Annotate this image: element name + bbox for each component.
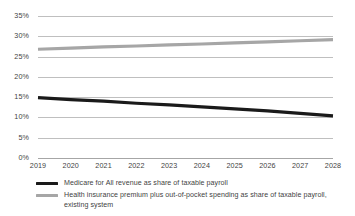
y-axis-tick-label: 35%: [0, 12, 29, 19]
x-axis-tick-label: 2023: [152, 162, 186, 169]
x-axis-tick-label: 2021: [87, 162, 121, 169]
x-axis-tick-label: 2020: [54, 162, 88, 169]
legend-swatch-gray: [36, 194, 58, 197]
legend-item: Health insurance premium plus out-of-poc…: [36, 190, 346, 210]
y-axis-tick-label: 15%: [0, 93, 29, 100]
y-axis-tick-label: 30%: [0, 32, 29, 39]
y-axis-tick-label: 20%: [0, 73, 29, 80]
x-axis-tick-label: 2025: [218, 162, 252, 169]
legend-item: Medicare for All revenue as share of tax…: [36, 178, 346, 188]
x-axis-tick-label: 2028: [316, 162, 350, 169]
plot-area: [38, 16, 333, 158]
series-lines: [38, 16, 333, 158]
x-axis-tick-label: 2019: [21, 162, 55, 169]
y-axis-tick-label: 10%: [0, 113, 29, 120]
x-axis-tick-labels: 2019202020212022202320242025202620272028: [38, 162, 333, 174]
x-axis-tick-label: 2027: [283, 162, 317, 169]
legend-label: Health insurance premium plus out-of-poc…: [64, 190, 346, 210]
chart-legend: Medicare for All revenue as share of tax…: [36, 178, 346, 212]
y-axis-tick-label: 0%: [0, 154, 29, 161]
x-axis-tick-label: 2024: [185, 162, 219, 169]
gridline: [38, 158, 333, 159]
legend-label: Medicare for All revenue as share of tax…: [64, 178, 228, 188]
y-axis-tick-label: 25%: [0, 53, 29, 60]
series-line-medicare-for-all: [38, 98, 333, 116]
chart-figure: 0%5%10%15%20%25%30%35% 20192020202120222…: [0, 0, 355, 216]
y-axis-tick-label: 5%: [0, 134, 29, 141]
x-axis-tick-label: 2022: [119, 162, 153, 169]
x-axis-tick-label: 2026: [250, 162, 284, 169]
series-line-existing-system: [38, 40, 333, 50]
legend-swatch-black: [36, 182, 58, 185]
